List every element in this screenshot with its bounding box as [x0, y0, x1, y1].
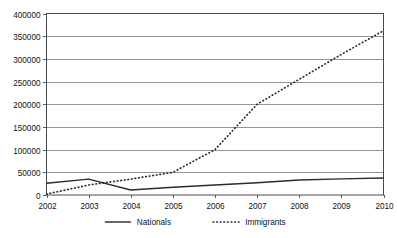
series-line-immigrants [47, 31, 384, 194]
x-tick-label: 2005 [164, 202, 183, 211]
x-tick-label: 2007 [248, 202, 267, 211]
x-tick-label: 2010 [375, 202, 394, 211]
tickmarks-group [43, 15, 385, 199]
gridlines-group [47, 37, 384, 173]
y-tick-label: 300000 [13, 56, 41, 65]
y-tick-label: 50000 [18, 169, 41, 178]
y-tick-label: 150000 [13, 124, 41, 133]
x-tick-label: 2008 [290, 202, 309, 211]
line-chart: 0500001000001500002000002500003000003500… [0, 0, 397, 238]
legend-label-nationals: Nationals [137, 218, 171, 227]
chart-canvas: 0500001000001500002000002500003000003500… [0, 0, 397, 238]
series-group [47, 31, 384, 194]
y-tick-label: 350000 [13, 33, 41, 42]
y-tick-label: 250000 [13, 79, 41, 88]
y-tick-label: 400000 [13, 11, 41, 20]
y-tick-label: 200000 [13, 101, 41, 110]
x-axis-labels: 200220032004200520062007200820092010 [38, 202, 394, 211]
legend-label-immigrants: Immigrants [245, 218, 286, 227]
x-tick-label: 2006 [206, 202, 225, 211]
y-tick-label: 0 [36, 192, 41, 201]
x-tick-label: 2003 [80, 202, 99, 211]
y-axis-labels: 0500001000001500002000002500003000003500… [13, 11, 41, 201]
x-tick-label: 2009 [332, 202, 351, 211]
x-tick-label: 2004 [122, 202, 141, 211]
x-tick-label: 2002 [38, 202, 57, 211]
y-tick-label: 100000 [13, 147, 41, 156]
chart-legend: NationalsImmigrants [105, 218, 286, 227]
